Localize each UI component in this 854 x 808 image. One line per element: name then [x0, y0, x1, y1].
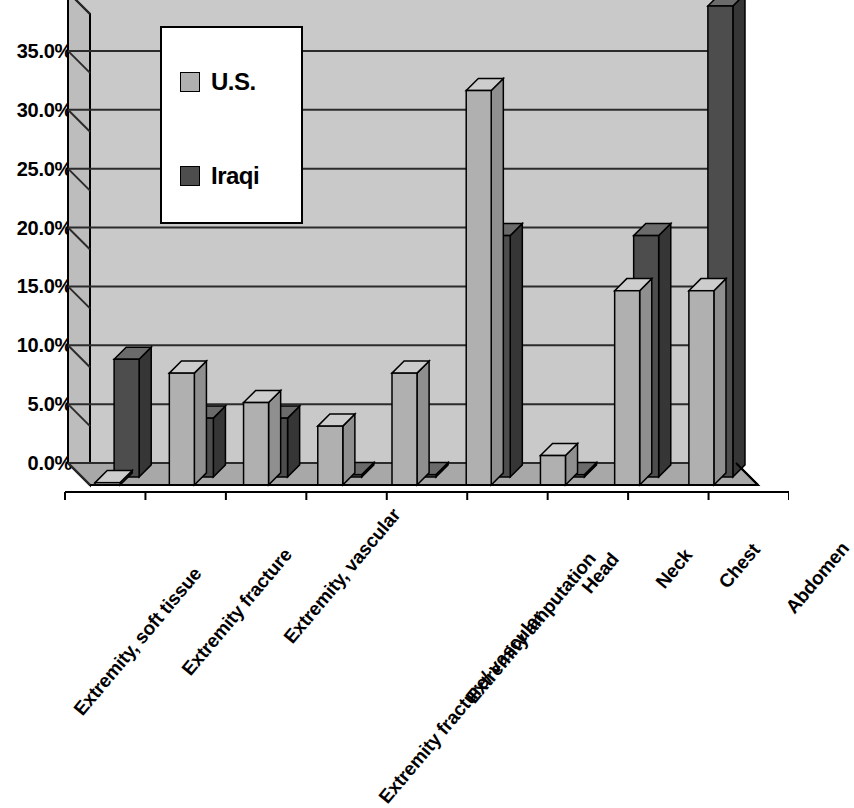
x-axis-category-label: Extremity amputation	[462, 548, 601, 708]
x-axis-category-label: Extremity, soft tissue	[70, 563, 207, 720]
x-axis-category-label: Extremity, vascular	[280, 504, 406, 648]
x-axis-category-label: Extremity fracture	[178, 544, 297, 680]
x-axis-category-label: Neck	[652, 545, 698, 593]
x-axis-category-label: Chest	[715, 539, 765, 593]
x-axis-category-label: Abdomen	[782, 538, 854, 618]
